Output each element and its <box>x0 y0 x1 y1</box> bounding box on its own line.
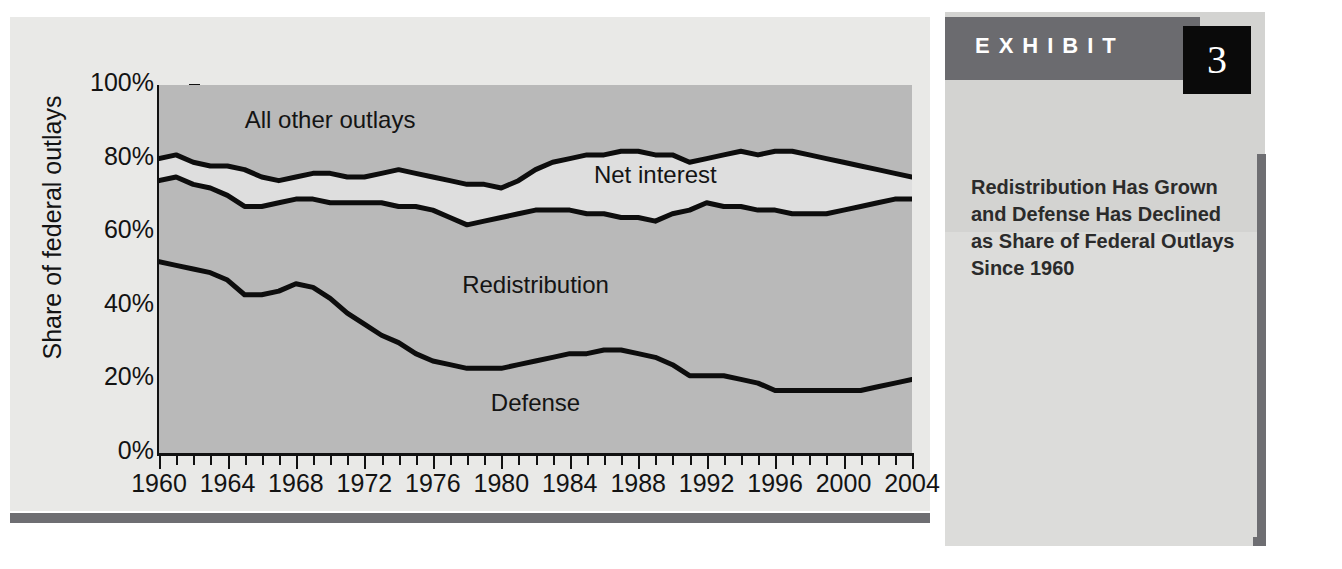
x-tick-mark-minor <box>758 456 760 465</box>
x-tick-mark-minor <box>861 456 863 465</box>
x-tick-label: 1988 <box>610 469 666 498</box>
chart-bottom-rule <box>10 513 930 523</box>
x-tick-mark-minor <box>792 456 794 465</box>
exhibit-caption: Redistribution Has Grown and Defense Has… <box>971 174 1243 282</box>
plot-area: All other outlaysNet interestRedistribut… <box>159 85 912 453</box>
x-tick-label: 2004 <box>884 469 940 498</box>
x-tick-mark-major <box>433 456 435 469</box>
x-tick-mark-minor <box>193 456 195 465</box>
x-tick-mark-minor <box>553 456 555 465</box>
x-tick-mark-minor <box>536 456 538 465</box>
y-tick-label: 60% <box>62 215 154 244</box>
exhibit-shadow-right <box>1257 154 1266 546</box>
x-tick-mark-major <box>707 456 709 469</box>
exhibit-shadow-bottom <box>1253 537 1266 546</box>
exhibit-figure: Share of federal outlays 0%20%40%60%80%1… <box>0 0 1342 569</box>
x-tick-mark-major <box>570 456 572 469</box>
x-tick-mark-major <box>844 456 846 469</box>
x-tick-mark-minor <box>467 456 469 465</box>
x-tick-label: 2000 <box>816 469 872 498</box>
x-tick-mark-major <box>228 456 230 469</box>
x-tick-mark-minor <box>724 456 726 465</box>
series-label-redistribution: Redistribution <box>462 271 609 299</box>
x-tick-mark-minor <box>416 456 418 465</box>
x-tick-mark-minor <box>399 456 401 465</box>
x-tick-mark-minor <box>484 456 486 465</box>
x-tick-mark-minor <box>895 456 897 465</box>
x-tick-mark-minor <box>587 456 589 465</box>
y-tick-label: 80% <box>62 142 154 171</box>
x-tick-label: 1972 <box>337 469 393 498</box>
series-label-all-other-outlays: All other outlays <box>245 106 416 134</box>
exhibit-label: EXHIBIT <box>975 33 1125 59</box>
x-tick-mark-major <box>775 456 777 469</box>
x-tick-mark-major <box>501 456 503 469</box>
x-tick-mark-minor <box>672 456 674 465</box>
x-tick-mark-minor <box>809 456 811 465</box>
x-tick-mark-minor <box>621 456 623 465</box>
y-tick-label: 0% <box>62 436 154 465</box>
x-tick-label: 1984 <box>542 469 598 498</box>
series-label-net-interest: Net interest <box>594 161 717 189</box>
x-tick-mark-minor <box>330 456 332 465</box>
x-tick-mark-major <box>912 456 914 469</box>
x-tick-label: 1964 <box>200 469 256 498</box>
x-tick-mark-minor <box>741 456 743 465</box>
x-tick-mark-minor <box>347 456 349 465</box>
x-tick-mark-minor <box>262 456 264 465</box>
x-tick-mark-minor <box>604 456 606 465</box>
x-tick-mark-minor <box>279 456 281 465</box>
y-tick-label: 100% <box>62 68 154 97</box>
x-tick-label: 1980 <box>473 469 529 498</box>
x-tick-label: 1976 <box>405 469 461 498</box>
x-tick-mark-minor <box>382 456 384 465</box>
x-tick-mark-minor <box>518 456 520 465</box>
chart-panel: Share of federal outlays 0%20%40%60%80%1… <box>10 17 930 511</box>
x-tick-label: 1996 <box>747 469 803 498</box>
x-tick-mark-minor <box>245 456 247 465</box>
exhibit-number: 3 <box>1183 26 1251 94</box>
x-tick-mark-minor <box>176 456 178 465</box>
x-tick-mark-minor <box>210 456 212 465</box>
x-tick-mark-minor <box>690 456 692 465</box>
y-tick-label: 40% <box>62 289 154 318</box>
x-tick-mark-major <box>638 456 640 469</box>
y-tick-label: 20% <box>62 362 154 391</box>
x-tick-label: 1968 <box>268 469 324 498</box>
x-tick-mark-major <box>159 456 161 469</box>
x-tick-mark-minor <box>826 456 828 465</box>
x-tick-mark-minor <box>313 456 315 465</box>
x-tick-label: 1960 <box>131 469 187 498</box>
series-label-defense: Defense <box>491 389 580 417</box>
x-tick-mark-minor <box>655 456 657 465</box>
x-tick-mark-minor <box>450 456 452 465</box>
x-tick-mark-minor <box>878 456 880 465</box>
x-tick-mark-major <box>364 456 366 469</box>
exhibit-sidebar: EXHIBIT 3 Redistribution Has Grown and D… <box>945 12 1265 546</box>
x-tick-mark-major <box>296 456 298 469</box>
x-tick-label: 1992 <box>679 469 735 498</box>
y-axis-tick-labels: 0%20%40%60%80%100% <box>50 17 154 511</box>
